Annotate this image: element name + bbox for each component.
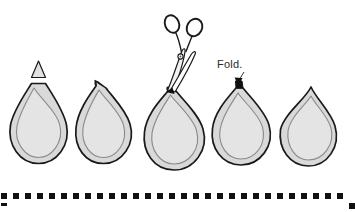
border-dot (25, 193, 31, 199)
triangle-marker-icon (32, 61, 46, 78)
border-dot (325, 193, 331, 199)
border-dot (205, 193, 211, 199)
shape-inner-seam-5 (288, 96, 332, 160)
border-dot (37, 193, 43, 199)
border-dot (97, 193, 103, 199)
step-5-teardrop-finished (280, 87, 336, 166)
border-dot (253, 193, 259, 199)
border-dot (73, 193, 79, 199)
scissors-handle-left (162, 13, 182, 35)
border-dot (301, 193, 307, 199)
dotted-border-strip (0, 186, 353, 212)
step-2-teardrop-tilted-point (76, 81, 132, 164)
border-dot (313, 193, 319, 199)
border-dot-wrap-right (349, 203, 355, 209)
border-dot (109, 193, 115, 199)
step-3-teardrop-being-cut (144, 13, 205, 170)
scissors-pivot-dot (180, 56, 182, 58)
border-dot (85, 193, 91, 199)
border-dot (169, 193, 175, 199)
border-dot (145, 193, 151, 199)
scissors-handle-right (184, 16, 206, 39)
border-dot (193, 193, 199, 199)
fold-label: Fold. (217, 58, 242, 70)
border-dot (241, 193, 247, 199)
border-dot (289, 193, 295, 199)
border-dot (229, 193, 235, 199)
scissors-shank-left (175, 31, 182, 52)
border-dot (49, 193, 55, 199)
border-dot (277, 193, 283, 199)
border-dot (1, 193, 7, 199)
border-dot (61, 193, 67, 199)
border-dot (157, 193, 163, 199)
step-4-teardrop-folded (212, 72, 270, 165)
border-dot (181, 193, 187, 199)
border-dot (337, 193, 343, 199)
border-dot (133, 193, 139, 199)
border-dot (121, 193, 127, 199)
border-dot (265, 193, 271, 199)
border-dot (13, 193, 19, 199)
border-dot-wrap-left (1, 203, 7, 206)
scissors-icon (162, 13, 205, 94)
border-dot (217, 193, 223, 199)
step-1-teardrop-with-triangle-tab (10, 61, 67, 164)
